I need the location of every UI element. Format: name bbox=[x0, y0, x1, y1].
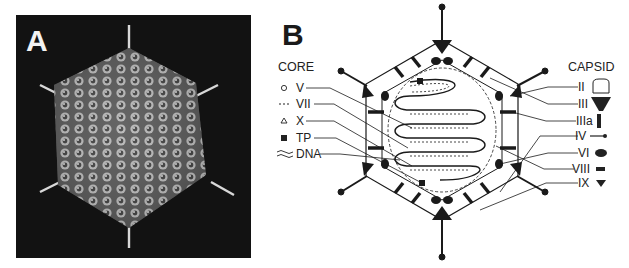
small-triangle-icon bbox=[596, 180, 606, 187]
capsid-label-ii: II bbox=[578, 81, 585, 94]
capsid-label-vi: VI bbox=[578, 147, 589, 160]
capsid-label-ix: IX bbox=[578, 177, 589, 190]
capsid-legend-title: CAPSID bbox=[568, 61, 615, 74]
virion-schematic bbox=[0, 0, 629, 268]
core-label-x: X bbox=[296, 115, 304, 128]
penton-base-icon bbox=[591, 97, 611, 111]
dna-path bbox=[395, 80, 485, 180]
core-label-dna: DNA bbox=[296, 148, 321, 161]
core-label-tp: TP bbox=[296, 132, 311, 145]
capsid-label-iii: III bbox=[578, 98, 588, 111]
oval-icon bbox=[595, 149, 607, 157]
core-legend-symbols bbox=[277, 85, 293, 157]
bar-icon bbox=[597, 114, 601, 128]
circle-icon bbox=[281, 85, 286, 90]
small-rect-icon bbox=[596, 167, 605, 171]
capsid-legend-symbols bbox=[590, 79, 611, 187]
capsid-label-viii: VIII bbox=[572, 163, 590, 176]
protein-vi bbox=[381, 57, 503, 204]
penton-bases bbox=[362, 40, 522, 220]
capsid-outer bbox=[366, 40, 518, 220]
filled-square-icon bbox=[281, 135, 287, 141]
hexon-outline-icon bbox=[593, 79, 609, 93]
triangle-outline-icon bbox=[281, 118, 287, 123]
capsid-label-iv: IV bbox=[575, 130, 586, 143]
hexon-markers bbox=[368, 57, 516, 203]
core-label-v: V bbox=[296, 82, 304, 95]
capsid-label-iiia: IIIa bbox=[576, 115, 593, 128]
capsid-inner bbox=[382, 60, 502, 200]
core-label-vii: VII bbox=[296, 98, 311, 111]
double-wave-icon bbox=[277, 151, 293, 158]
capsid-leader-lines bbox=[480, 78, 578, 210]
core-legend-title: CORE bbox=[278, 61, 314, 74]
